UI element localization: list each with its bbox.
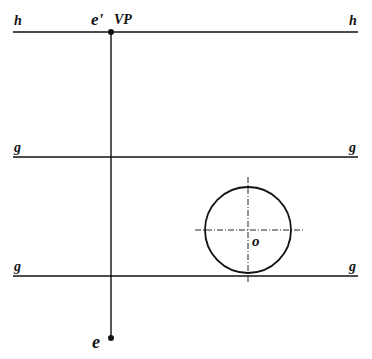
label-ground-top-left: g (14, 141, 21, 155)
vp-point (108, 29, 114, 35)
label-horizon-right: h (349, 14, 357, 28)
label-ground-top-right: g (349, 141, 356, 155)
eye-point (108, 335, 114, 341)
label-ground-bottom-left: g (14, 260, 21, 274)
label-vanishing-point: VP (114, 13, 132, 27)
label-circle-center: o (252, 234, 260, 249)
label-eye: e (92, 333, 100, 351)
label-ground-bottom-right: g (349, 260, 356, 274)
label-eye-projection: e' (91, 11, 103, 28)
diagram-canvas (0, 0, 372, 359)
label-horizon-left: h (14, 14, 22, 28)
